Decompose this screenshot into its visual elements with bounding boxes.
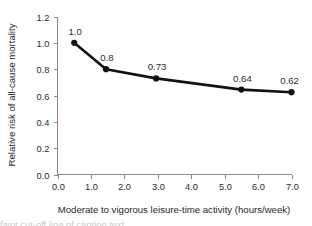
- data-point-label: 0.8: [100, 52, 113, 63]
- series-point-labels: 1.00.80.730.640.62: [69, 26, 299, 86]
- chart-figure: 0.00.20.40.60.81.01.2 0.01.02.03.04.05.0…: [0, 0, 312, 226]
- x-tick-label: 3.0: [152, 182, 165, 192]
- x-axis-ticks: [59, 175, 293, 179]
- x-axis-tick-labels: 0.01.02.03.04.05.06.07.0: [52, 182, 299, 192]
- series-markers: [71, 40, 295, 96]
- x-axis: 0.01.02.03.04.05.06.07.0: [52, 175, 299, 192]
- y-axis-tick-labels: 0.00.20.40.60.81.01.2: [37, 13, 50, 181]
- x-tick-label: 5.0: [219, 182, 232, 192]
- data-point-marker: [103, 66, 109, 72]
- x-axis-title: Moderate to vigorous leisure-time activi…: [58, 204, 290, 215]
- caption-partial-text: faint cut-off line of caption text: [0, 219, 312, 226]
- y-axis: 0.00.20.40.60.81.01.2: [37, 13, 58, 181]
- x-tick-label: 6.0: [252, 182, 265, 192]
- data-point-marker: [153, 75, 159, 81]
- y-tick-label: 0.4: [37, 118, 50, 128]
- x-tick-label: 2.0: [118, 182, 131, 192]
- relative-risk-line-chart: 0.00.20.40.60.81.01.2 0.01.02.03.04.05.0…: [0, 0, 312, 226]
- x-tick-label: 1.0: [85, 182, 98, 192]
- y-tick-label: 0.6: [37, 92, 50, 102]
- y-tick-label: 0.0: [37, 171, 50, 181]
- data-point-label: 0.73: [148, 61, 167, 72]
- x-tick-label: 4.0: [185, 182, 198, 192]
- y-axis-ticks: [54, 18, 58, 176]
- data-point-marker: [238, 87, 244, 93]
- y-tick-label: 0.8: [37, 65, 50, 75]
- y-tick-label: 0.2: [37, 144, 50, 154]
- data-point-label: 0.62: [280, 75, 299, 86]
- data-point-marker: [71, 40, 77, 46]
- data-point-label: 1.0: [69, 26, 82, 37]
- y-tick-label: 1.2: [37, 13, 50, 23]
- data-point-label: 0.64: [233, 73, 252, 84]
- x-tick-label: 0.0: [52, 182, 65, 192]
- data-point-marker: [288, 89, 294, 95]
- x-tick-label: 7.0: [286, 182, 299, 192]
- data-series-group: 1.00.80.730.640.62: [69, 26, 299, 96]
- y-tick-label: 1.0: [37, 39, 50, 49]
- y-axis-title: Relative risk of all-cause mortality: [6, 23, 17, 166]
